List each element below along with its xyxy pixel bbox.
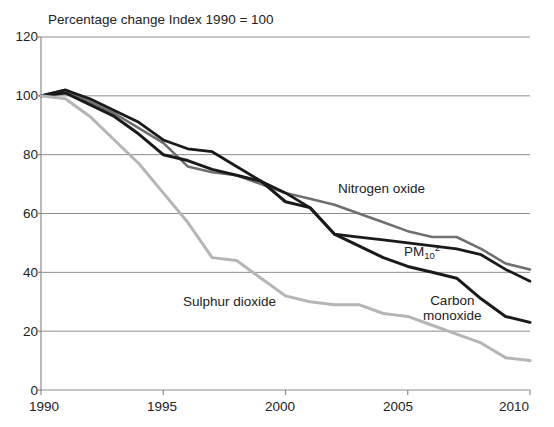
plot-area bbox=[0, 0, 554, 427]
series-label-pm10: PM102 bbox=[404, 243, 440, 262]
series-label-nitrogen-oxide: Nitrogen oxide bbox=[338, 181, 425, 196]
pm10-prefix: PM bbox=[404, 244, 424, 259]
series-label-sulphur-dioxide: Sulphur dioxide bbox=[183, 294, 276, 309]
carbon-monoxide-line-1: Carbon bbox=[423, 293, 482, 308]
series-line-carbon-monoxide bbox=[41, 93, 530, 322]
carbon-monoxide-line-2: monoxide bbox=[423, 308, 482, 323]
pm10-superscript: 2 bbox=[435, 242, 440, 253]
series-label-carbon-monoxide: Carbon monoxide bbox=[423, 293, 482, 323]
pm10-subscript: 10 bbox=[424, 250, 435, 261]
chart-container: Percentage change Index 1990 = 100 120 1… bbox=[0, 0, 554, 427]
series-line-pm10-2 bbox=[41, 90, 530, 281]
